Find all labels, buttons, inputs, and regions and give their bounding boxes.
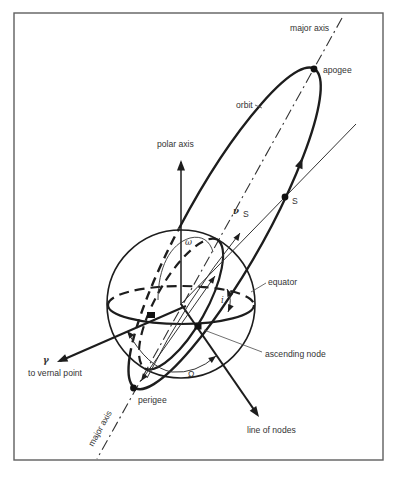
ascending-node-label: ascending node <box>265 349 326 359</box>
orbital-diagram-page: major axis apogee orbit polar axis equat… <box>0 0 397 478</box>
line-of-nodes-label: line of nodes <box>247 425 296 435</box>
orbital-elements-diagram: major axis apogee orbit polar axis equat… <box>0 0 397 478</box>
satellite-point <box>282 194 289 201</box>
descending-node-point <box>147 312 155 318</box>
to-vernal-point-label: to vernal point <box>28 368 83 378</box>
figure-frame <box>14 13 383 460</box>
raan-symbol: Ω <box>188 369 195 379</box>
major-axis-top-label: major axis <box>290 23 329 33</box>
orbit-label: orbit <box>236 100 253 110</box>
perigee-point <box>130 385 137 392</box>
argument-of-perigee-symbol: ω <box>185 237 192 247</box>
apogee-point <box>311 66 318 73</box>
polar-axis-label: polar axis <box>157 139 194 149</box>
inclination-label: i <box>221 295 224 305</box>
true-anomaly-subscript: S <box>243 209 249 219</box>
apogee-label: apogee <box>323 65 352 75</box>
satellite-label: S <box>292 196 298 206</box>
equator-label: equator <box>268 277 297 287</box>
ascending-node-point <box>195 324 202 330</box>
true-anomaly-symbol: ν <box>233 206 239 216</box>
perigee-label: perigee <box>138 395 167 405</box>
